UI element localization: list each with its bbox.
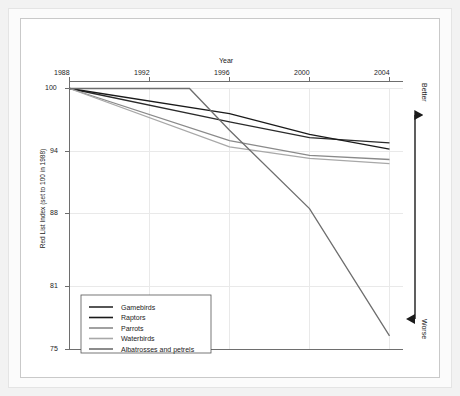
chart-area: Year Red List Index (set to 100 in 1988)… bbox=[21, 19, 441, 379]
chart-legend: GamebirdsRaptorsParrotsWaterbirdsAlbatro… bbox=[81, 295, 211, 354]
legend-label-waterbirds: Waterbirds bbox=[121, 335, 155, 342]
legend-label-raptors: Raptors bbox=[121, 314, 146, 322]
legend-label-parrots: Parrots bbox=[121, 325, 144, 332]
y-axis-ticks bbox=[65, 89, 69, 350]
legend-label-albatrosses-and-petrels: Albatrosses and petrels bbox=[121, 346, 195, 354]
chart-panel: Year Red List Index (set to 100 in 1988)… bbox=[20, 18, 440, 378]
screenshot-frame: Year Red List Index (set to 100 in 1988)… bbox=[0, 0, 460, 396]
grid-horizontal bbox=[69, 89, 403, 287]
line-chart-svg: GamebirdsRaptorsParrotsWaterbirdsAlbatro… bbox=[21, 19, 441, 379]
x-axis-ticks bbox=[70, 77, 390, 81]
legend-label-gamebirds: Gamebirds bbox=[121, 304, 156, 311]
